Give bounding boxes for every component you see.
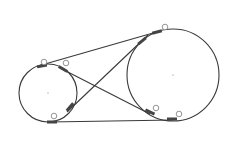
control-handle[interactable]: [162, 24, 168, 30]
control-handle[interactable]: [63, 60, 69, 66]
control-handle[interactable]: [176, 111, 182, 117]
control-handle[interactable]: [41, 59, 47, 65]
tangent-marker: [167, 118, 177, 121]
pulley-diagram: [0, 0, 239, 145]
large-pulley-center-dot: [172, 74, 173, 75]
bottom-external-tangent-line: [49, 120, 174, 122]
small-pulley-center-dot: [47, 92, 48, 93]
control-handles: [41, 24, 182, 119]
tangent-marker: [58, 65, 68, 73]
tangent-marker: [137, 37, 147, 46]
control-handle[interactable]: [51, 113, 57, 119]
tangent-marker: [152, 29, 162, 34]
control-handle[interactable]: [153, 105, 159, 111]
top-external-tangent-line: [38, 31, 160, 66]
tangent-marker: [47, 121, 57, 124]
